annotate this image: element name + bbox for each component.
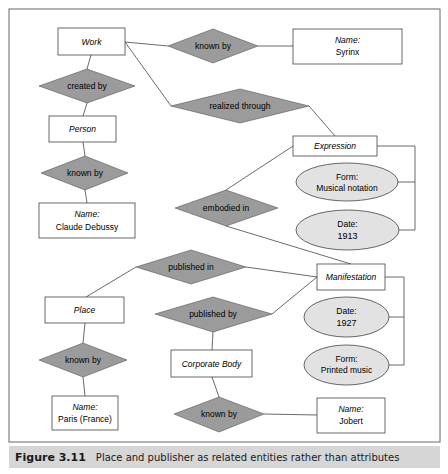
entity-label: Corporate Body bbox=[182, 359, 242, 369]
rel-label: known by bbox=[195, 41, 232, 51]
entity-work: Work bbox=[58, 28, 125, 55]
attr-label: Date: bbox=[337, 219, 357, 229]
entity-corporate-body: Corporate Body bbox=[171, 350, 252, 377]
attr-value: Printed music bbox=[321, 365, 373, 375]
entity-label: Person bbox=[69, 124, 96, 134]
attr-expression-date: Date: 1913 bbox=[296, 210, 399, 250]
attr-manifestation-date: Date: 1927 bbox=[304, 297, 389, 337]
attr-label: Name: bbox=[338, 404, 364, 414]
rel-label: realized through bbox=[210, 101, 271, 111]
attr-value: 1927 bbox=[336, 318, 356, 328]
entity-label: Work bbox=[82, 37, 103, 47]
er-diagram: Work Name: Syrinx Person Expression Name… bbox=[0, 0, 448, 474]
attr-value: Syrinx bbox=[336, 47, 360, 57]
entity-name-paris: Name: Paris (France) bbox=[52, 396, 118, 430]
rel-label: embodied in bbox=[203, 203, 250, 213]
attr-value: 1913 bbox=[337, 231, 357, 241]
rel-label: published by bbox=[189, 309, 237, 319]
attr-value: Claude Debussy bbox=[56, 222, 119, 232]
entity-label: Manifestation bbox=[326, 272, 377, 282]
attr-value: Musical notation bbox=[316, 183, 378, 193]
attr-label: Form: bbox=[336, 172, 358, 182]
attr-expression-form: Form: Musical notation bbox=[296, 163, 398, 201]
rel-label: known by bbox=[201, 409, 238, 419]
caption-text: Place and publisher as related entities … bbox=[96, 452, 400, 463]
attr-label: Name: bbox=[74, 209, 100, 219]
entity-name-syrinx: Name: Syrinx bbox=[293, 29, 402, 64]
rel-label: published in bbox=[168, 262, 214, 272]
attr-value: Jobert bbox=[339, 416, 363, 426]
entity-name-jobert: Name: Jobert bbox=[317, 398, 385, 433]
entity-manifestation: Manifestation bbox=[317, 264, 385, 290]
rel-label: known by bbox=[67, 168, 104, 178]
rel-label: known by bbox=[65, 355, 102, 365]
figure-caption: Figure 3.11 Place and publisher as relat… bbox=[9, 446, 440, 468]
entity-place: Place bbox=[45, 297, 124, 323]
figure-number: Figure 3.11 bbox=[15, 451, 86, 464]
attr-manifestation-form: Form: Printed music bbox=[304, 345, 389, 385]
attr-label: Date: bbox=[336, 306, 356, 316]
attr-label: Name: bbox=[72, 402, 98, 412]
entity-label: Place bbox=[74, 305, 96, 315]
attr-value: Paris (France) bbox=[58, 414, 112, 424]
entity-person: Person bbox=[49, 116, 116, 142]
entity-name-debussy: Name: Claude Debussy bbox=[39, 203, 135, 238]
attr-label: Name: bbox=[335, 35, 361, 45]
entity-expression: Expression bbox=[293, 136, 377, 156]
entity-label: Expression bbox=[314, 141, 356, 151]
attr-label: Form: bbox=[335, 354, 357, 364]
rel-label: created by bbox=[67, 81, 107, 91]
